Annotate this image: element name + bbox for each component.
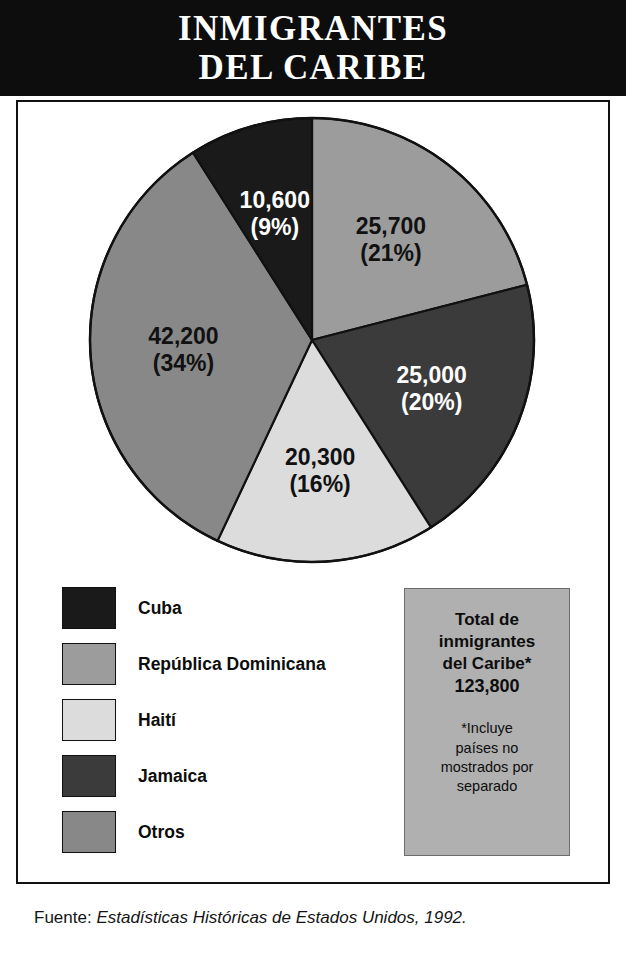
total-footnote: *Incluye países no mostrados por separad… <box>441 719 534 796</box>
list-item[interactable]: Cuba <box>62 580 372 636</box>
total-value: 123,800 <box>454 676 519 697</box>
list-item[interactable]: Jamaica <box>62 748 372 804</box>
source-prefix: Fuente: <box>34 908 96 927</box>
legend-swatch-haiti <box>62 699 116 741</box>
infographic-poster: INMIGRANTES DEL CARIBE 25,700(21%)25,000… <box>0 0 626 964</box>
list-item[interactable]: Haití <box>62 692 372 748</box>
pie-label-jamaica: 25,000(20%) <box>397 362 467 415</box>
legend-label-cuba: Cuba <box>138 598 182 619</box>
pie-chart-svg: 25,700(21%)25,000(20%)20,300(16%)42,200(… <box>80 112 550 572</box>
legend-swatch-otros <box>62 811 116 853</box>
chart-frame: 25,700(21%)25,000(20%)20,300(16%)42,200(… <box>16 100 610 884</box>
legend-label-jamaica: Jamaica <box>138 766 207 787</box>
source-title: Estadísticas Históricas de Estados Unido… <box>96 908 466 927</box>
title-banner: INMIGRANTES DEL CARIBE <box>0 0 626 96</box>
legend-label-haiti: Haití <box>138 710 176 731</box>
list-item[interactable]: Otros <box>62 804 372 860</box>
pie-label-hait: 20,300(16%) <box>285 444 355 497</box>
total-callout-box: Total de inmigrantes del Caribe* 123,800… <box>404 588 570 856</box>
pie-label-otros: 42,200(34%) <box>148 323 218 376</box>
list-item[interactable]: República Dominicana <box>62 636 372 692</box>
legend: Cuba República Dominicana Haití Jamaica … <box>62 580 372 860</box>
pie-chart: 25,700(21%)25,000(20%)20,300(16%)42,200(… <box>80 112 550 572</box>
source-line: Fuente: Estadísticas Históricas de Estad… <box>34 908 467 928</box>
legend-label-otros: Otros <box>138 822 185 843</box>
total-heading: Total de inmigrantes del Caribe* <box>439 609 535 674</box>
legend-swatch-republica-dominicana <box>62 643 116 685</box>
legend-swatch-cuba <box>62 587 116 629</box>
pie-label-rep-blica-dominicana: 25,700(21%) <box>356 213 426 266</box>
page-title: INMIGRANTES DEL CARIBE <box>178 9 448 87</box>
legend-label-republica-dominicana: República Dominicana <box>138 654 326 675</box>
legend-swatch-jamaica <box>62 755 116 797</box>
